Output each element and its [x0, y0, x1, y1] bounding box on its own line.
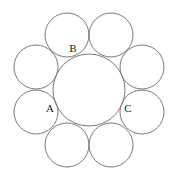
label-c: C	[124, 102, 131, 114]
outer-circle-bottom-right	[89, 123, 133, 167]
outer-circle-top-left	[45, 13, 89, 57]
outer-circles	[14, 13, 164, 167]
diagram-canvas: B A C	[0, 0, 177, 180]
center-circle	[53, 54, 125, 126]
label-b: B	[69, 42, 76, 54]
outer-circle-bottom-left	[45, 123, 89, 167]
outer-circle-right-upper	[120, 45, 164, 89]
outer-circle-top-right	[89, 13, 133, 57]
label-a: A	[46, 102, 54, 114]
point-labels: B A C	[46, 42, 132, 114]
circle-ring-diagram: B A C	[0, 0, 177, 180]
outer-circle-left-upper	[14, 45, 58, 89]
